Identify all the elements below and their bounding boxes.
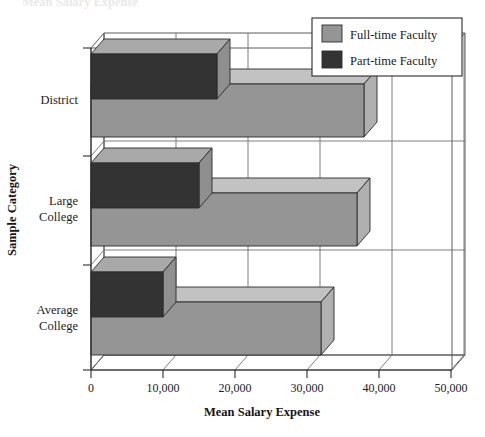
bar-group-large-college [91, 148, 370, 246]
x-axis: 0 10,000 20,000 30,000 40,000 50,000 Mea… [88, 370, 468, 419]
y-axis: District Large College Average College S… [5, 48, 91, 370]
x-tick-label-3: 30,000 [291, 381, 324, 395]
y-axis-title: Sample Category [5, 163, 19, 256]
x-tick-label-0: 0 [88, 381, 94, 395]
y-axis-ticks [83, 48, 91, 370]
x-tick-label-1: 10,000 [147, 381, 180, 395]
bar-large-college-part-time[interactable] [91, 148, 212, 208]
x-axis-title: Mean Salary Expense [204, 405, 320, 419]
legend-label-part-time: Part-time Faculty [350, 54, 438, 68]
y-tick-label-large-college-line2: College [39, 210, 78, 224]
legend-label-full-time: Full-time Faculty [350, 28, 438, 42]
y-tick-label-large-college-line1: Large [49, 194, 78, 208]
legend-swatch-part-time [322, 51, 342, 68]
legend-entry-part-time[interactable]: Part-time Faculty [322, 51, 438, 68]
legend-swatch-full-time [322, 25, 342, 42]
chart-legend[interactable]: Full-time Faculty Part-time Faculty [312, 18, 462, 76]
x-axis-ticks [91, 370, 451, 378]
clipped-title-text: Mean Salary Expense [22, 0, 138, 9]
x-tick-label-2: 20,000 [219, 381, 252, 395]
x-tick-label-5: 50,000 [435, 381, 468, 395]
bar-group-average-college [91, 257, 334, 355]
y-tick-label-average-college-line1: Average [37, 303, 79, 317]
y-tick-label-district: District [41, 93, 79, 107]
bar-average-college-part-time[interactable] [91, 257, 176, 317]
clipped-title: Mean Salary Expense [22, 0, 138, 9]
legend-entry-full-time[interactable]: Full-time Faculty [322, 25, 438, 42]
x-tick-label-4: 40,000 [363, 381, 396, 395]
salary-bar-chart: Mean Salary Expense [0, 0, 485, 437]
chart-container: Mean Salary Expense [0, 0, 485, 437]
bar-district-part-time[interactable] [91, 39, 230, 99]
y-tick-label-average-college-line2: College [39, 319, 78, 333]
